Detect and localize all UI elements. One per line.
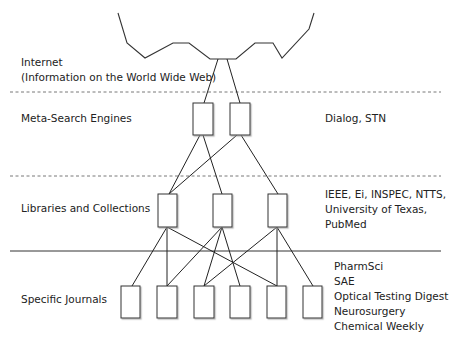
examples-meta-search: Dialog, STN bbox=[325, 111, 386, 126]
layer-title: Internet bbox=[21, 55, 216, 70]
layer-subtitle: (Information on the World Wide Web) bbox=[21, 70, 216, 85]
example-line: Chemical Weekly bbox=[334, 319, 448, 334]
layer-label-libraries: Libraries and Collections bbox=[21, 201, 150, 216]
information-hierarchy-diagram: Internet (Information on the World Wide … bbox=[0, 0, 451, 343]
journal-node-5 bbox=[267, 286, 286, 318]
examples-journals: PharmSci SAE Optical Testing Digest Neur… bbox=[334, 259, 448, 334]
examples-libraries: IEEE, Ei, INSPEC, NTTS, University of Te… bbox=[325, 187, 446, 232]
library-node-1 bbox=[158, 194, 177, 227]
library-node-3 bbox=[268, 194, 287, 227]
example-line: PharmSci bbox=[334, 259, 448, 274]
layer-label-journals: Specific Journals bbox=[21, 292, 107, 307]
journal-node-4 bbox=[230, 286, 250, 318]
layer-label-meta-search: Meta-Search Engines bbox=[21, 111, 132, 126]
example-line: Optical Testing Digest bbox=[334, 289, 448, 304]
journal-node-6 bbox=[303, 286, 322, 318]
example-line: SAE bbox=[334, 274, 448, 289]
layer-label-internet: Internet (Information on the World Wide … bbox=[21, 55, 216, 85]
journal-node-2 bbox=[157, 286, 177, 318]
edges bbox=[132, 59, 313, 286]
journal-node-1 bbox=[121, 286, 140, 318]
journal-node-3 bbox=[194, 286, 214, 318]
example-line: University of Texas, bbox=[325, 202, 446, 217]
example-line: PubMed bbox=[325, 217, 446, 232]
example-line: IEEE, Ei, INSPEC, NTTS, bbox=[325, 187, 446, 202]
meta-search-node-1 bbox=[193, 103, 213, 135]
library-node-2 bbox=[213, 194, 232, 227]
meta-search-node-2 bbox=[230, 103, 250, 135]
example-line: Neurosurgery bbox=[334, 304, 448, 319]
internet-outline bbox=[118, 13, 314, 59]
